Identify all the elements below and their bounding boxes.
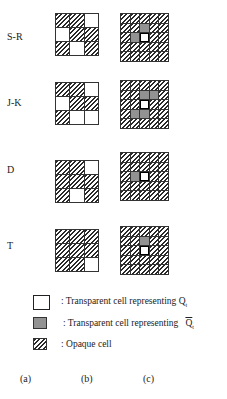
transparent-cell [85,83,98,96]
opaque-cell [150,172,159,181]
opaque-cell [159,52,168,61]
opaque-cell [159,153,168,162]
opaque-cell [150,265,159,274]
grid-c [120,13,169,62]
opaque-cell [56,175,69,188]
opaque-cell [56,42,69,55]
legend-transparent-qbar-swatch [33,317,47,329]
opaque-cell [85,42,98,55]
opaque-cell [131,24,140,33]
transparent-cell [70,189,83,202]
opaque-cell [121,52,130,61]
transparent-cell [56,97,69,110]
legend-transparent-qbar-prefix: : Transparent cell representing [63,318,181,328]
opaque-cell [159,227,168,236]
opaque-cell [56,14,69,27]
transparent-qbar-cell [131,172,140,181]
opaque-cell [85,175,98,188]
opaque-cell [150,52,159,61]
opaque-cell [56,111,69,124]
opaque-cell [70,83,83,96]
grid-b [55,160,99,203]
opaque-cell [140,14,149,23]
opaque-cell [159,110,168,119]
opaque-cell [150,237,159,246]
opaque-cell [150,14,159,23]
opaque-cell [140,227,149,236]
opaque-cell [140,81,149,90]
opaque-cell [70,244,83,257]
opaque-cell [150,191,159,200]
opaque-cell [121,182,130,191]
opaque-cell [159,246,168,255]
opaque-cell [150,153,159,162]
opaque-cell [140,153,149,162]
opaque-cell [159,265,168,274]
opaque-cell [159,182,168,191]
transparent-cell [85,111,98,124]
legend-transparent-q-swatch [33,295,50,310]
transparent-cell [85,14,98,27]
opaque-cell [140,256,149,265]
opaque-cell [159,14,168,23]
opaque-cell [121,256,130,265]
opaque-cell [159,81,168,90]
opaque-cell [121,24,130,33]
qbar-subscript: t [192,324,194,330]
grid-b [55,82,99,125]
opaque-cell [140,52,149,61]
opaque-cell [121,153,130,162]
row-label: S-R [7,31,23,42]
opaque-cell [150,43,159,52]
opaque-cell [70,258,83,271]
grid-b [55,13,99,56]
opaque-cell [121,81,130,90]
opaque-cell [140,43,149,52]
transparent-qbar-cell [140,91,149,100]
opaque-cell [121,237,130,246]
legend-opaque-swatch [33,338,47,350]
opaque-cell [150,110,159,119]
row-label: T [7,240,13,251]
opaque-cell [150,81,159,90]
transparent-qbar-cell [140,24,149,33]
transparent-q-cell [140,172,149,181]
column-label-c: (c) [143,373,154,384]
opaque-cell [70,230,83,243]
row-label: J-K [7,97,21,108]
opaque-cell [150,119,159,128]
opaque-cell [159,119,168,128]
opaque-cell [159,256,168,265]
opaque-cell [56,83,69,96]
transparent-qbar-cell [131,110,140,119]
opaque-cell [131,14,140,23]
opaque-cell [56,230,69,243]
opaque-cell [131,81,140,90]
opaque-cell [150,227,159,236]
opaque-cell [150,163,159,172]
opaque-cell [159,191,168,200]
opaque-cell [159,172,168,181]
opaque-cell [85,189,98,202]
transparent-q-cell [140,100,149,109]
opaque-cell [56,258,69,271]
opaque-cell [131,153,140,162]
opaque-cell [121,227,130,236]
legend-opaque-text: : Opaque cell [61,339,112,349]
opaque-cell [121,119,130,128]
transparent-qbar-cell [140,237,149,246]
opaque-cell [159,91,168,100]
opaque-cell [131,100,140,109]
opaque-cell [56,189,69,202]
opaque-cell [131,237,140,246]
opaque-cell [131,163,140,172]
transparent-cell [70,42,83,55]
q-subscript: t [186,302,188,308]
q-symbol: Q [179,296,186,306]
opaque-cell [56,161,69,174]
opaque-cell [159,33,168,42]
opaque-cell [121,265,130,274]
column-label-b: (b) [81,373,93,384]
transparent-cell [85,161,98,174]
legend-transparent-q-text: : Transparent cell representing Qt [61,296,187,308]
